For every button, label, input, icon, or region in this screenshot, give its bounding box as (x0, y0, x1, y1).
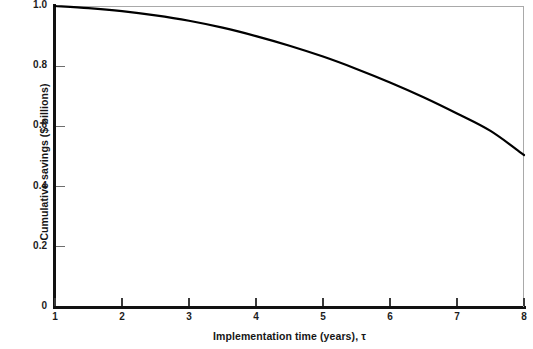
x-tick (523, 298, 524, 306)
x-tick-label: 6 (370, 311, 410, 322)
plot-area (55, 6, 524, 307)
y-tick-label: 0.4 (0, 180, 47, 191)
x-tick (121, 298, 122, 306)
x-tick-label: 5 (303, 311, 343, 322)
y-tick (56, 186, 65, 187)
y-tick (56, 246, 65, 247)
x-tick (255, 298, 256, 306)
x-tick (54, 298, 55, 306)
x-tick (188, 298, 189, 306)
y-tick-label: 0.8 (0, 59, 47, 70)
y-tick-label: 1.0 (0, 0, 47, 10)
x-tick-label: 2 (102, 311, 142, 322)
y-tick (56, 66, 65, 67)
x-tick-label: 8 (504, 311, 533, 322)
y-tick-label: 0.2 (0, 240, 47, 251)
x-axis-title: Implementation time (years), τ (55, 330, 524, 342)
y-tick-label: 0.6 (0, 119, 47, 130)
x-tick-label: 7 (437, 311, 477, 322)
x-tick (456, 298, 457, 306)
x-tick (389, 298, 390, 306)
x-tick-label: 1 (35, 311, 75, 322)
y-tick (56, 126, 65, 127)
x-tick-label: 4 (236, 311, 276, 322)
chart-figure: Cumulative savings ($ billions) 00.20.40… (0, 0, 533, 349)
y-tick-label: 0 (0, 300, 47, 311)
x-tick-label: 3 (169, 311, 209, 322)
x-tick (322, 298, 323, 306)
